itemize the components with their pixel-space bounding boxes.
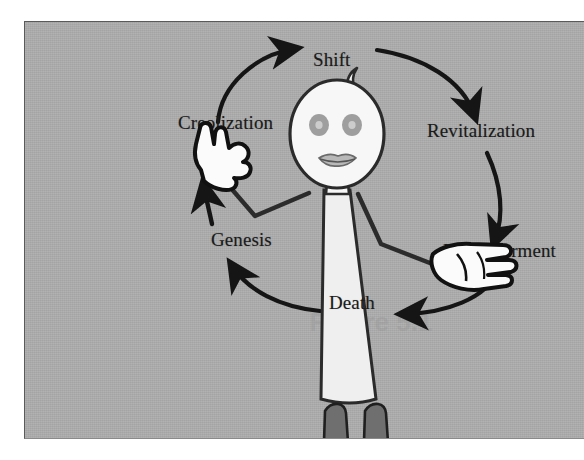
right-hand-open-palm-icon [431,244,516,290]
left-hand-two-fingers-icon [195,123,251,190]
hands-layer [25,22,584,439]
figure-root: Figure 5.1 [0,0,584,460]
diagram-panel: Figure 5.1 [24,21,584,439]
